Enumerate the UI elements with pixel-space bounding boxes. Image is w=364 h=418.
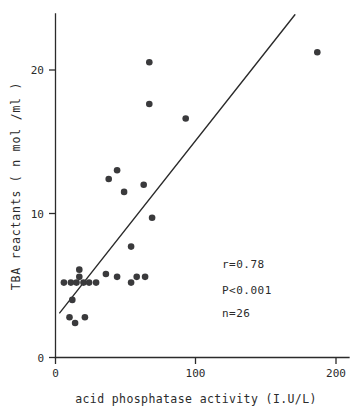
- data-point: [114, 167, 121, 174]
- data-point: [72, 320, 79, 327]
- data-point: [76, 266, 83, 273]
- y-tick-label-0: 0: [37, 352, 44, 365]
- data-point: [66, 314, 73, 321]
- x-axis-title: acid phosphatase activity (I.U/L): [75, 392, 317, 406]
- data-point: [82, 314, 89, 321]
- data-point: [103, 271, 110, 278]
- y-tick-label-20: 20: [31, 64, 44, 77]
- data-point: [121, 189, 128, 196]
- data-point: [61, 279, 68, 286]
- data-point: [69, 297, 76, 304]
- data-point: [114, 274, 121, 281]
- data-point: [105, 176, 112, 183]
- data-point: [93, 279, 100, 286]
- data-point: [86, 279, 93, 286]
- x-tick-label-200: 200: [326, 367, 346, 380]
- annotation-p-value: P<0.001: [222, 284, 272, 297]
- annotation-sample-size: n=26: [222, 307, 251, 320]
- data-point: [314, 49, 321, 56]
- data-point: [182, 115, 189, 122]
- y-axis-title: TBA reactants ( n mol /ml ): [9, 82, 23, 291]
- data-point: [140, 181, 147, 188]
- data-point: [128, 243, 135, 250]
- data-point: [149, 215, 156, 222]
- data-point: [146, 59, 153, 66]
- data-point: [142, 274, 149, 281]
- y-tick-label-10: 10: [31, 208, 44, 221]
- data-point: [76, 274, 83, 281]
- scatter-plot-figure: 20 10 0 0 100 200 acid phosphatase activ…: [0, 0, 364, 418]
- x-tick-label-100: 100: [186, 367, 206, 380]
- data-point: [133, 274, 140, 281]
- data-point: [73, 279, 80, 286]
- data-point: [128, 279, 135, 286]
- x-tick-label-0: 0: [52, 367, 59, 380]
- plot-canvas: 20 10 0 0 100 200 acid phosphatase activ…: [0, 0, 364, 418]
- data-points-group: [61, 49, 321, 326]
- data-point: [146, 101, 153, 108]
- annotation-correlation: r=0.78: [222, 258, 265, 271]
